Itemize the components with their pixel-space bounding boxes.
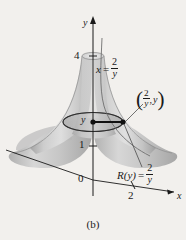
tick-label-y-1: 1	[79, 139, 85, 150]
figure-caption: (b)	[0, 218, 186, 230]
tick-label-y-variable: y	[81, 115, 85, 125]
axis-point-marker	[90, 119, 95, 124]
point-label-comma: ,	[150, 95, 153, 105]
radius-equation-equals: =	[138, 170, 144, 181]
point-label-fraction: 2 y	[143, 89, 150, 109]
curve-equation-label: x = 2 y	[96, 59, 118, 81]
solid-of-revolution-illustration	[0, 0, 186, 240]
radius-equation-fraction: 2 y	[146, 163, 153, 185]
tick-label-y-4: 4	[74, 50, 80, 61]
x-axis-label: x	[177, 191, 181, 201]
radius-equation-label: R(y) = 2 y	[117, 165, 153, 187]
origin-label: 0	[78, 173, 84, 184]
point-coordinate-label: ( 2 y , y )	[136, 90, 165, 110]
radius-equation-lhs: R(y)	[117, 170, 136, 181]
curve-equation-fraction: 2 y	[111, 57, 118, 79]
figure-container: y x 4 1 2 0 y x = 2 y ( 2 y , y )	[0, 0, 186, 240]
tick-label-x-2: 2	[128, 190, 134, 201]
y-axis-label: y	[83, 18, 87, 28]
point-label-numerator: 2	[143, 89, 150, 98]
radius-equation-denominator: y	[146, 174, 153, 185]
curve-equation-denominator: y	[111, 68, 118, 79]
curve-equation-numerator: 2	[111, 57, 118, 67]
radius-equation-numerator: 2	[146, 163, 153, 173]
point-label-close-paren: )	[158, 91, 165, 109]
curve-point-marker	[120, 119, 125, 124]
curve-equation-equals: =	[103, 64, 109, 75]
curve-equation-lhs: x	[96, 64, 101, 75]
point-label-open-paren: (	[136, 91, 143, 109]
point-label-denominator: y	[143, 98, 150, 108]
